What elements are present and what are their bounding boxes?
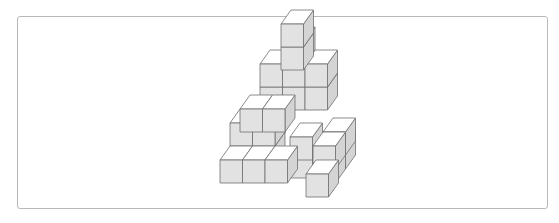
cube-front-face	[220, 160, 243, 183]
cube-front-face	[243, 160, 266, 183]
cube-front-face	[263, 109, 286, 132]
cube-front-face	[281, 47, 304, 70]
cube-front-face	[305, 64, 328, 87]
cube-front-face	[281, 24, 304, 47]
cube-front-face	[305, 87, 328, 110]
cube-front-face	[306, 174, 329, 197]
cube-front-face	[240, 109, 263, 132]
cube-front-face	[260, 64, 283, 87]
cube-front-face	[265, 160, 288, 183]
cube-stack-diagram	[0, 0, 559, 223]
